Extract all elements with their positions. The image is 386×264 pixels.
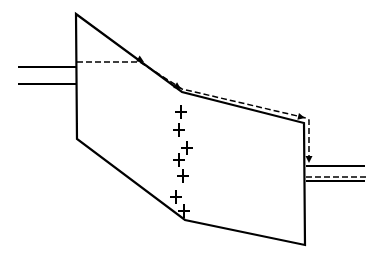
vessel-outline [76, 14, 305, 245]
flow-arrowheads [136, 55, 312, 163]
flow-diagram [0, 0, 386, 264]
arrowhead-icon [306, 156, 313, 163]
plus-charge-icon [175, 105, 187, 119]
vessel-polygon [76, 14, 305, 245]
plus-charge-icon [170, 190, 182, 204]
outlet-pipe [306, 166, 368, 181]
plus-charge-icon [173, 123, 185, 137]
plus-charge-icon [173, 153, 185, 167]
plus-charge-icon [181, 141, 193, 155]
positive-charges [170, 105, 193, 218]
inlet-pipe [18, 67, 77, 84]
plus-charge-icon [177, 169, 189, 183]
